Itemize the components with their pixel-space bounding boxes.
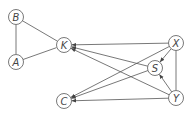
node-label: C <box>61 96 68 107</box>
node-label: Y <box>173 93 180 104</box>
edge-b-k <box>22 21 57 41</box>
edge-s-c <box>72 71 148 99</box>
node-c: C <box>57 94 72 109</box>
node-label: S <box>152 63 159 74</box>
node-a: A <box>9 55 24 70</box>
edge-x-k <box>72 43 169 45</box>
node-label: X <box>172 38 181 49</box>
node-s: S <box>148 61 163 76</box>
node-k: K <box>57 38 72 53</box>
node-y: Y <box>169 91 184 106</box>
node-b: B <box>9 10 24 25</box>
edge-a-k <box>23 48 56 60</box>
edge-y-s <box>160 75 172 92</box>
node-x: X <box>169 36 184 51</box>
node-label: B <box>13 12 20 23</box>
edge-y-c <box>72 98 169 101</box>
nodes: BAKCXSY <box>9 10 184 109</box>
graph-diagram: BAKCXSY <box>0 0 194 119</box>
node-label: A <box>12 57 20 68</box>
